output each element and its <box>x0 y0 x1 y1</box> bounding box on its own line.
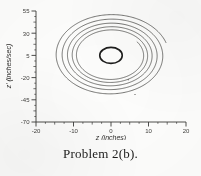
y-tick-label: 55 <box>23 8 30 14</box>
spiral-trajectory <box>56 15 166 94</box>
x-tick-label: -10 <box>69 128 78 134</box>
figure-caption: Problem 2(b). <box>0 146 201 162</box>
x-axis-title: z (inches) <box>95 134 126 140</box>
limit-cycle-circle <box>100 47 123 63</box>
plot-svg: 55 30 5 -20 -45 -70 -20 -10 0 10 20 z (i… <box>0 0 201 140</box>
phase-plane-plot: 55 30 5 -20 -45 -70 -20 -10 0 10 20 z (i… <box>0 0 201 140</box>
y-tick-label: -20 <box>21 75 30 81</box>
y-tick-label: 5 <box>26 53 30 59</box>
scan-speck <box>128 79 129 80</box>
trajectory-group <box>56 15 166 95</box>
y-tick-label: -45 <box>21 97 30 103</box>
y-tick-label: 30 <box>23 31 30 37</box>
y-axis-tick-labels: 55 30 5 -20 -45 -70 <box>21 8 30 125</box>
y-axis-title: z' (inches/sec) <box>5 44 13 90</box>
x-axis-major-ticks <box>36 122 186 127</box>
x-tick-label: -20 <box>32 128 41 134</box>
y-tick-label: -70 <box>21 119 30 125</box>
figure-root: 55 30 5 -20 -45 -70 -20 -10 0 10 20 z (i… <box>0 0 201 176</box>
x-tick-label: 20 <box>183 128 190 134</box>
x-tick-label: 10 <box>145 128 152 134</box>
scan-speck <box>134 94 135 95</box>
